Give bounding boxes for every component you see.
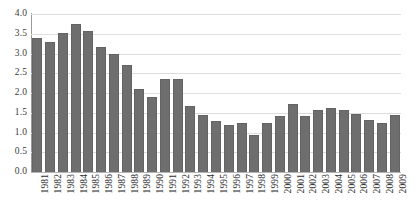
y-tick-label: 4.0 xyxy=(0,9,27,19)
bar xyxy=(32,38,42,172)
y-tick-label: 3.5 xyxy=(0,29,27,39)
bar xyxy=(134,89,144,172)
bar xyxy=(326,108,336,172)
y-tick-label: 1.5 xyxy=(0,108,27,118)
gridline xyxy=(31,14,401,15)
x-tick-label: 1992 xyxy=(182,174,192,220)
bar xyxy=(390,115,400,172)
bar xyxy=(71,24,81,172)
y-tick-label: 3.0 xyxy=(0,49,27,59)
bar xyxy=(147,97,157,172)
bar xyxy=(173,79,183,172)
x-tick-label: 2000 xyxy=(284,174,294,220)
bar xyxy=(364,120,374,172)
bar xyxy=(211,121,221,172)
x-tick-label: 1996 xyxy=(233,174,243,220)
x-tick-label: 2004 xyxy=(335,174,345,220)
x-axis-tick-labels: 1981198219831984198519861987198819891990… xyxy=(31,174,401,222)
x-tick-label: 1987 xyxy=(118,174,128,220)
plot-area xyxy=(31,14,401,172)
x-tick-label: 1988 xyxy=(131,174,141,220)
x-tick-label: 1982 xyxy=(54,174,64,220)
bar xyxy=(96,47,106,172)
bar xyxy=(339,110,349,172)
x-tick-label: 2001 xyxy=(297,174,307,220)
bar xyxy=(83,31,93,172)
y-tick-label: 0.5 xyxy=(0,147,27,157)
bar xyxy=(58,33,68,172)
y-tick-label: 2.5 xyxy=(0,68,27,78)
bar xyxy=(185,106,195,172)
bar xyxy=(288,104,298,172)
x-tick-label: 1999 xyxy=(271,174,281,220)
x-tick-label: 2002 xyxy=(309,174,319,220)
bar-chart: 0.00.51.01.52.02.53.03.54.0 198119821983… xyxy=(0,0,419,222)
x-tick-label: 1998 xyxy=(258,174,268,220)
bar xyxy=(249,135,259,172)
x-tick-label: 1989 xyxy=(143,174,153,220)
bar xyxy=(313,110,323,172)
bar xyxy=(122,65,132,172)
y-tick-label: 0.0 xyxy=(0,167,27,177)
x-tick-label: 1983 xyxy=(67,174,77,220)
y-tick-label: 1.0 xyxy=(0,128,27,138)
x-tick-label: 1984 xyxy=(80,174,90,220)
bar xyxy=(351,114,361,172)
y-tick-label: 2.0 xyxy=(0,88,27,98)
bar xyxy=(109,54,119,173)
x-tick-label: 2008 xyxy=(386,174,396,220)
x-tick-label: 2007 xyxy=(373,174,383,220)
x-tick-label: 2009 xyxy=(399,174,409,220)
bar xyxy=(160,79,170,172)
x-tick-label: 1985 xyxy=(92,174,102,220)
x-tick-label: 2003 xyxy=(322,174,332,220)
x-tick-label: 1993 xyxy=(194,174,204,220)
x-tick-label: 2006 xyxy=(360,174,370,220)
bar xyxy=(237,123,247,172)
x-tick-label: 1986 xyxy=(105,174,115,220)
bar xyxy=(377,123,387,172)
x-tick-label: 1997 xyxy=(246,174,256,220)
bar xyxy=(45,42,55,172)
bar xyxy=(198,115,208,172)
x-tick-label: 1991 xyxy=(169,174,179,220)
x-tick-label: 1995 xyxy=(220,174,230,220)
x-tick-label: 1990 xyxy=(156,174,166,220)
x-tick-label: 1981 xyxy=(41,174,51,220)
x-tick-label: 2005 xyxy=(348,174,358,220)
x-axis-baseline xyxy=(31,172,401,173)
bar xyxy=(262,123,272,172)
bar xyxy=(275,116,285,172)
bar xyxy=(300,116,310,172)
y-axis-tick-labels: 0.00.51.01.52.02.53.03.54.0 xyxy=(0,0,27,222)
bar xyxy=(224,125,234,172)
x-tick-label: 1994 xyxy=(207,174,217,220)
